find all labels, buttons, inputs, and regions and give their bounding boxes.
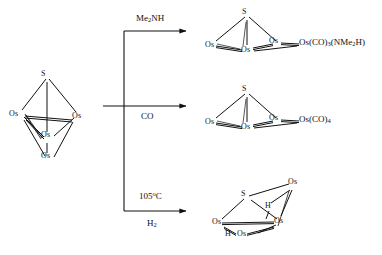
reactant-os-left-label: Os [9, 110, 18, 118]
product1-os-bottom-label: Os [241, 46, 250, 54]
product3-h-bridge-upper-label: H [265, 202, 271, 210]
product3-os-top-right-label: Os [288, 178, 297, 186]
reactant-os-right-label: Os [72, 112, 81, 120]
product-cluster-amine-bonds [216, 17, 299, 52]
reactant-s-label: S [41, 70, 46, 78]
branch-trunk-and-arrows [103, 31, 186, 211]
product2-os-right-label: Os [269, 114, 278, 122]
product2-formula: Os(CO)4 [299, 115, 331, 125]
reaction-scheme-figure: S Os Os Os Os Me2NH CO 105oC H2 S Os Os … [0, 0, 382, 255]
reactant-os-bottom-label: Os [41, 152, 50, 160]
product-cluster-hydride-bonds [222, 184, 292, 235]
product1-formula: Os(CO)3(NMe2H) [299, 38, 365, 48]
product3-os-mid-right-label: Os [274, 217, 283, 225]
product3-os-left-label: Os [212, 218, 221, 226]
condition-temperature: 105oC [139, 191, 162, 201]
product3-s-label: S [241, 190, 246, 198]
condition-co: CO [141, 112, 154, 121]
product-cluster-co-bonds [216, 94, 299, 129]
reactant-cluster-bonds [22, 79, 76, 157]
product2-s-label: S [242, 85, 247, 93]
condition-amine: Me2NH [136, 14, 164, 24]
product3-os-bottom-label: Os [237, 230, 246, 238]
product3-h-bridge-lower-label: H [225, 230, 231, 238]
reactant-os-center-label: Os [41, 131, 50, 139]
product1-os-right-label: Os [269, 37, 278, 45]
product1-s-label: S [242, 8, 247, 16]
product2-os-left-label: Os [205, 118, 214, 126]
product2-os-bottom-label: Os [241, 123, 250, 131]
product1-os-left-label: Os [205, 41, 214, 49]
condition-hydrogen: H2 [147, 219, 157, 229]
